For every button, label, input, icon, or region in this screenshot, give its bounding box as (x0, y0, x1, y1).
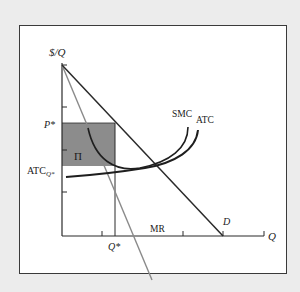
x-axis-label: Q (268, 230, 276, 242)
diagram-canvas: $/Q Q P* ATCQ* Π Q* SMC ATC MR D (0, 0, 300, 292)
monopoly-diagram: $/Q Q P* ATCQ* Π Q* SMC ATC MR D (0, 0, 300, 292)
price-label: P* (43, 119, 55, 130)
y-axis-label: $/Q (49, 46, 66, 58)
profit-label: Π (74, 150, 82, 162)
mr-label: MR (150, 224, 165, 234)
atc-label: ATC (196, 115, 214, 125)
quantity-label: Q* (108, 241, 120, 252)
demand-label: D (222, 216, 231, 227)
smc-label: SMC (172, 109, 192, 119)
